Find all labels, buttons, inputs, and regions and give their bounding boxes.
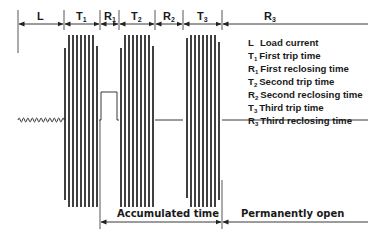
legend-item-R2: R2Second reclosing time [248,89,363,101]
label-R3: R3 [264,10,276,23]
load-current-wave [18,118,64,122]
label-L: L [37,10,44,22]
label-T1: T1 [76,10,87,23]
legend-item-R1: R1First reclosing time [248,63,349,75]
legend-item-T1: T1First trip time [248,50,321,62]
label-R1: R1 [104,10,116,23]
label-T2: T2 [131,10,142,23]
timing-diagram: L T1 R1 T2 R2 T3 R3 [0,0,381,239]
trip-burst-T3 [187,35,219,207]
trip-burst-T1 [65,35,97,207]
legend: LLoad current T1First trip time R1First … [248,37,363,127]
legend-item-R3: R3Third reclosing time [248,115,352,127]
label-R2: R2 [163,10,175,23]
permanently-open-label: Permanently open [241,208,344,219]
label-T3: T3 [197,10,208,23]
trip-burst-T2 [121,35,153,207]
legend-item-T3: T3Third trip time [248,102,324,114]
legend-item-T2: T2Second trip time [248,76,334,88]
top-labels: L T1 R1 T2 R2 T3 R3 [37,10,276,23]
legend-item-L: LLoad current [248,37,319,48]
accumulated-time-label: Accumulated time [117,208,219,219]
